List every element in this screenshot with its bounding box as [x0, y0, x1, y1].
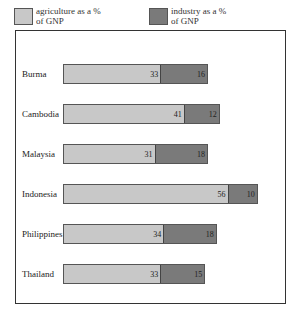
agriculture-swatch — [14, 8, 33, 25]
country-label: Indonesia — [22, 189, 57, 199]
stacked-bar: 3418 — [63, 224, 217, 244]
industry-value: 18 — [197, 150, 205, 159]
industry-value: 12 — [209, 110, 217, 119]
agriculture-value: 41 — [174, 110, 182, 119]
agriculture-segment: 33 — [64, 65, 160, 83]
legend-item-agriculture: agriculture as a % of GNP — [14, 6, 106, 26]
industry-value: 15 — [194, 270, 202, 279]
industry-segment: 12 — [184, 105, 219, 123]
stacked-bar: 3118 — [63, 144, 208, 164]
industry-segment: 10 — [228, 185, 257, 203]
agriculture-value: 33 — [150, 70, 158, 79]
stacked-bar: 3315 — [63, 264, 205, 284]
agriculture-value: 34 — [153, 230, 161, 239]
industry-value: 16 — [197, 70, 205, 79]
bar-row: Malaysia3118 — [16, 144, 285, 166]
bar-row: Burma3316 — [16, 64, 285, 86]
agriculture-value: 33 — [150, 270, 158, 279]
country-label: Malaysia — [22, 149, 55, 159]
bar-row: Cambodia4112 — [16, 104, 285, 126]
industry-swatch — [149, 8, 168, 25]
chart-frame: Burma3316Cambodia4112Malaysia3118Indones… — [15, 30, 286, 304]
agriculture-segment: 33 — [64, 265, 160, 283]
country-label: Burma — [22, 69, 47, 79]
industry-segment: 18 — [163, 225, 216, 243]
bar-row: Philippines3418 — [16, 224, 285, 246]
industry-segment: 15 — [160, 265, 204, 283]
agriculture-segment: 31 — [64, 145, 155, 163]
stacked-bar: 4112 — [63, 104, 220, 124]
agriculture-value: 31 — [145, 150, 153, 159]
legend-label-agriculture: agriculture as a % of GNP — [36, 6, 106, 26]
legend-item-industry: industry as a % of GNP — [149, 6, 231, 26]
agriculture-segment: 41 — [64, 105, 184, 123]
industry-segment: 18 — [155, 145, 208, 163]
industry-value: 10 — [247, 190, 255, 199]
stacked-bar: 5610 — [63, 184, 258, 204]
industry-segment: 16 — [160, 65, 207, 83]
stacked-bar: 3316 — [63, 64, 208, 84]
country-label: Philippines — [22, 229, 63, 239]
agriculture-value: 56 — [218, 190, 226, 199]
legend-label-industry: industry as a % of GNP — [171, 6, 231, 26]
country-label: Thailand — [22, 269, 54, 279]
agriculture-segment: 34 — [64, 225, 163, 243]
industry-value: 18 — [206, 230, 214, 239]
bar-row: Indonesia5610 — [16, 184, 285, 206]
country-label: Cambodia — [22, 109, 59, 119]
bar-row: Thailand3315 — [16, 264, 285, 286]
agriculture-segment: 56 — [64, 185, 228, 203]
